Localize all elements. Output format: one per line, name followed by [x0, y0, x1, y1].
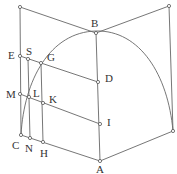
label-h: H	[40, 148, 48, 159]
label-e: E	[8, 50, 15, 61]
label-a: A	[96, 164, 104, 174]
label-g: G	[47, 52, 55, 63]
label-k: K	[49, 94, 57, 105]
geometry-diagram: B E S G D M L K I C N H A	[0, 0, 177, 174]
label-d: D	[105, 73, 113, 84]
label-c: C	[12, 140, 19, 151]
label-m: M	[6, 89, 16, 100]
label-b: B	[91, 18, 98, 29]
label-s: S	[26, 46, 32, 57]
label-l: L	[33, 88, 40, 99]
label-n: N	[25, 143, 33, 154]
label-i: I	[107, 117, 111, 128]
